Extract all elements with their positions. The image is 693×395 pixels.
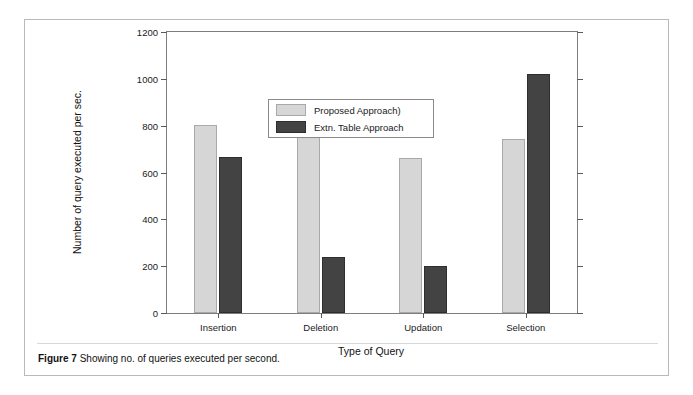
y-axis-tick-label: 1000 [137,73,158,84]
x-axis-tick-label: Deletion [303,322,338,333]
legend-swatch-icon-extn-table-approach [276,121,306,133]
legend-label-extn-table-approach: Extn. Table Approach [314,122,404,133]
x-axis-tick [526,313,527,318]
caption-divider [37,343,658,344]
y-axis-tick [161,219,167,220]
y-axis-tick [161,79,167,80]
legend-item-proposed-approach: Proposed Approach) [276,104,401,116]
bar-deletion-series-0 [297,125,320,314]
bar-updation-series-0 [399,158,422,313]
legend-item-extn-table-approach: Extn. Table Approach [276,121,404,133]
bar-selection-series-0 [502,139,525,313]
x-axis-tick-label: Selection [506,322,545,333]
figure-caption-number: Figure 7 [38,353,77,364]
y-axis-tick-label: 600 [142,167,158,178]
y-axis-tick-right [577,173,583,174]
chart-plot-area: 020040060080010001200InsertionDeletionUp… [166,31,578,314]
bar-deletion-series-1 [322,257,345,313]
bar-insertion-series-1 [219,157,242,313]
y-axis-tick-label: 1200 [137,27,158,38]
chart-legend: Proposed Approach) Extn. Table Approach [268,99,434,138]
x-axis-tick [321,313,322,318]
bar-selection-series-1 [527,74,550,313]
x-axis-label: Type of Query [338,345,404,357]
y-axis-tick-right [577,126,583,127]
x-axis-tick [423,313,424,318]
y-axis-tick-right [577,79,583,80]
y-axis-tick [161,313,167,314]
y-axis-tick-label: 0 [153,308,158,319]
y-axis-tick [161,173,167,174]
figure-caption-text: Showing no. of queries executed per seco… [80,353,280,364]
x-axis-tick-label: Updation [404,322,442,333]
legend-label-proposed-approach: Proposed Approach) [314,105,401,116]
x-axis-tick [218,313,219,318]
y-axis-tick [161,126,167,127]
x-axis-tick-label: Insertion [200,322,236,333]
y-axis-label: Number of query executed per sec. [71,90,83,254]
legend-swatch-icon-proposed-approach [276,104,306,116]
y-axis-tick-right [577,32,583,33]
y-axis-tick-right [577,313,583,314]
y-axis-tick [161,32,167,33]
figure-caption: Figure 7 Showing no. of queries executed… [38,353,280,364]
y-axis-tick-right [577,266,583,267]
bar-insertion-series-0 [194,125,217,314]
y-axis-tick-label: 400 [142,214,158,225]
y-axis-tick-label: 200 [142,261,158,272]
bar-updation-series-1 [424,266,447,313]
y-axis-tick-label: 800 [142,120,158,131]
y-axis-tick-right [577,219,583,220]
figure-frame: 020040060080010001200InsertionDeletionUp… [24,19,669,376]
y-axis-tick [161,266,167,267]
